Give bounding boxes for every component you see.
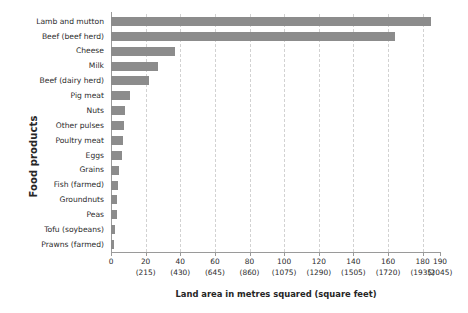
bar — [111, 166, 119, 175]
x-tick-sublabel: (860) — [240, 268, 260, 277]
bar-row — [111, 222, 440, 237]
bar-row — [111, 59, 440, 74]
x-tick-mark — [284, 252, 285, 256]
bar-row — [111, 133, 440, 148]
bar — [111, 121, 124, 130]
x-tick-label: 100 — [277, 257, 291, 266]
category-label: Pig meat — [24, 88, 108, 103]
category-label: Nuts — [24, 103, 108, 118]
bar — [111, 106, 125, 115]
bar-row — [111, 103, 440, 118]
category-label: Beef (beef herd) — [24, 29, 108, 44]
plot-area — [111, 14, 440, 252]
bar-chart: Food products Lamb and muttonBeef (beef … — [0, 0, 468, 313]
bar-row — [111, 118, 440, 133]
bar-row — [111, 14, 440, 29]
bar — [111, 240, 114, 249]
bar — [111, 17, 431, 26]
bar — [111, 47, 175, 56]
x-tick-mark — [440, 252, 441, 256]
bar — [111, 76, 149, 85]
bar — [111, 136, 123, 145]
bar — [111, 32, 395, 41]
category-label: Beef (dairy herd) — [24, 74, 108, 89]
x-tick-label: 40 — [176, 257, 185, 266]
x-tick-sublabel: (645) — [205, 268, 225, 277]
x-tick-label: 0 — [109, 257, 114, 266]
x-tick-sublabel: (2045) — [428, 268, 453, 277]
bar — [111, 225, 115, 234]
category-label: Prawns (farmed) — [24, 237, 108, 252]
x-tick-mark — [146, 252, 147, 256]
x-tick-sublabel: (1075) — [272, 268, 297, 277]
bar-series — [111, 14, 440, 252]
bar-row — [111, 163, 440, 178]
bar — [111, 91, 130, 100]
bar — [111, 181, 118, 190]
category-label: Eggs — [24, 148, 108, 163]
bar-row — [111, 148, 440, 163]
bar-row — [111, 74, 440, 89]
category-label: Other pulses — [24, 118, 108, 133]
bar — [111, 62, 158, 71]
x-tick-label: 20 — [141, 257, 150, 266]
category-label: Cheese — [24, 44, 108, 59]
x-tick-mark — [353, 252, 354, 256]
category-label: Lamb and mutton — [24, 14, 108, 29]
bar-row — [111, 44, 440, 59]
bar-row — [111, 207, 440, 222]
x-tick-mark — [215, 252, 216, 256]
bar — [111, 151, 122, 160]
bar — [111, 210, 117, 219]
x-tick-label: 190 — [433, 257, 447, 266]
x-tick-sublabel: (215) — [136, 268, 156, 277]
category-label: Grains — [24, 163, 108, 178]
x-tick-mark — [250, 252, 251, 256]
category-label: Fish (farmed) — [24, 178, 108, 193]
x-tick-mark — [111, 252, 112, 256]
category-label: Poultry meat — [24, 133, 108, 148]
x-tick-sublabel: (430) — [170, 268, 190, 277]
x-tick-label: 120 — [312, 257, 326, 266]
x-tick-label: 140 — [346, 257, 360, 266]
x-tick-mark — [319, 252, 320, 256]
x-axis-title: Land area in metres squared (square feet… — [111, 289, 441, 299]
x-tick-label: 180 — [416, 257, 430, 266]
x-tick-sublabel: (1720) — [376, 268, 401, 277]
x-tick-group: 020(215)40(430)60(645)80(860)100(1075)12… — [111, 252, 441, 282]
bar-row — [111, 193, 440, 208]
bar-row — [111, 29, 440, 44]
bar — [111, 195, 117, 204]
category-label-list: Lamb and muttonBeef (beef herd)CheeseMil… — [24, 14, 108, 252]
bar-row — [111, 88, 440, 103]
x-tick-mark — [423, 252, 424, 256]
category-label: Milk — [24, 59, 108, 74]
x-tick-sublabel: (1290) — [306, 268, 331, 277]
category-label: Groundnuts — [24, 193, 108, 208]
x-tick-sublabel: (1505) — [341, 268, 366, 277]
x-tick-mark — [180, 252, 181, 256]
bar-row — [111, 237, 440, 252]
x-tick-mark — [388, 252, 389, 256]
category-label: Tofu (soybeans) — [24, 222, 108, 237]
x-tick-label: 160 — [381, 257, 395, 266]
category-label: Peas — [24, 207, 108, 222]
x-tick-label: 80 — [245, 257, 254, 266]
x-tick-label: 60 — [210, 257, 219, 266]
bar-row — [111, 178, 440, 193]
